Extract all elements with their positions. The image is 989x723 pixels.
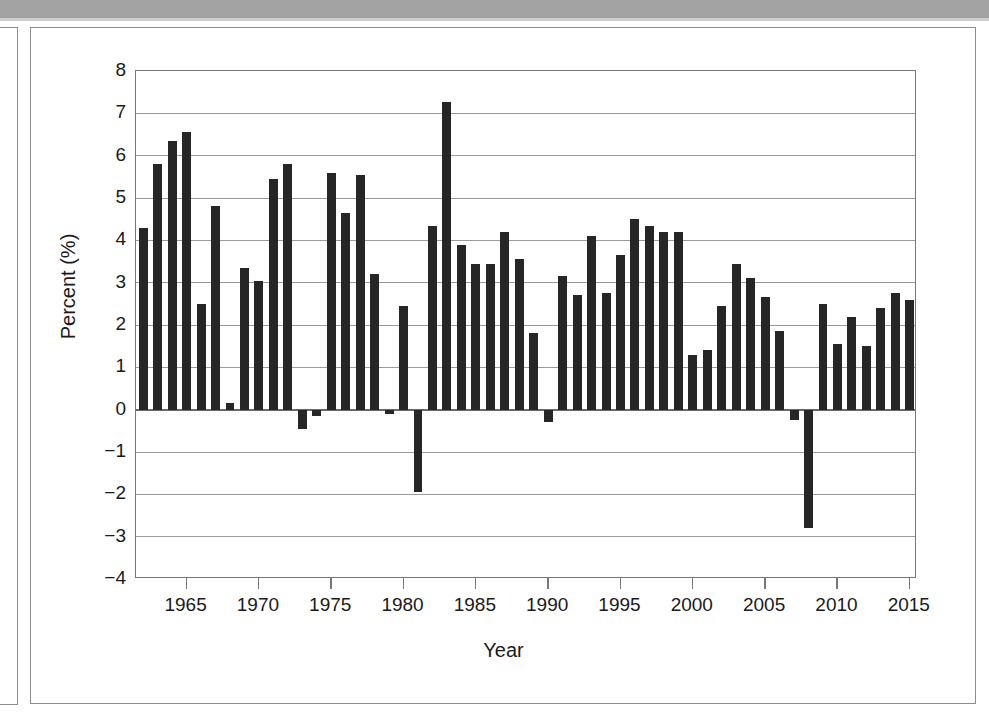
x-tick-mark — [403, 578, 404, 589]
y-tick-label: 8 — [115, 60, 126, 79]
bar — [471, 264, 480, 410]
bar — [269, 179, 278, 410]
x-tick-label: 2015 — [888, 594, 930, 616]
bar — [746, 278, 755, 409]
bar — [500, 232, 509, 410]
gridline — [136, 198, 915, 199]
gridline — [136, 155, 915, 156]
bar — [819, 304, 828, 410]
bar — [254, 281, 263, 410]
y-tick-label: −3 — [104, 526, 126, 545]
y-tick-label: −4 — [104, 568, 126, 587]
bar — [558, 276, 567, 409]
figure-container: Percent (%) 876543210−1−2−3−4 1965197019… — [30, 27, 977, 703]
bar — [674, 232, 683, 410]
x-tick-label: 2005 — [743, 594, 785, 616]
bar — [804, 410, 813, 529]
y-axis-tick-labels: 876543210−1−2−3−4 — [74, 70, 126, 578]
gridline — [136, 325, 915, 326]
bar — [442, 102, 451, 410]
bar — [414, 410, 423, 493]
gridline — [136, 536, 915, 537]
x-tick-mark — [692, 578, 693, 589]
bar — [616, 255, 625, 410]
x-tick-mark — [620, 578, 621, 589]
gridline — [136, 282, 915, 283]
bar — [891, 293, 900, 409]
x-tick-mark — [547, 578, 548, 589]
bar — [457, 245, 466, 410]
bar — [529, 333, 538, 409]
x-tick-label: 1985 — [454, 594, 496, 616]
bar — [587, 236, 596, 410]
plot-area — [135, 70, 916, 578]
bar — [283, 164, 292, 410]
y-tick-label: 6 — [115, 145, 126, 164]
y-tick-label: −2 — [104, 483, 126, 502]
x-tick-label: 1970 — [237, 594, 279, 616]
bar — [182, 132, 191, 409]
y-tick-label: −1 — [104, 441, 126, 460]
bar — [761, 297, 770, 409]
scan-band — [0, 0, 989, 18]
y-tick-label: 4 — [115, 229, 126, 248]
page-root: Percent (%) 876543210−1−2−3−4 1965197019… — [0, 0, 989, 723]
bar — [197, 304, 206, 410]
gridline — [136, 113, 915, 114]
bar — [428, 226, 437, 410]
bar — [399, 306, 408, 410]
bar — [602, 293, 611, 409]
x-tick-mark — [186, 578, 187, 589]
y-tick-label: 0 — [115, 399, 126, 418]
bar — [847, 317, 856, 410]
x-tick-mark — [764, 578, 765, 589]
outer-page-frame — [0, 27, 18, 705]
gridline — [136, 452, 915, 453]
x-tick-label: 1990 — [526, 594, 568, 616]
bar — [298, 410, 307, 429]
x-tick-mark — [330, 578, 331, 589]
x-tick-label: 1995 — [598, 594, 640, 616]
x-tick-label: 1975 — [309, 594, 351, 616]
x-tick-label: 1965 — [164, 594, 206, 616]
bar — [833, 344, 842, 410]
bar — [544, 410, 553, 423]
y-tick-label: 2 — [115, 314, 126, 333]
scan-band-edge — [0, 18, 989, 21]
bar — [876, 308, 885, 410]
bar — [905, 300, 914, 410]
gridline — [136, 494, 915, 495]
x-axis-title: Year — [30, 639, 977, 662]
bar — [356, 175, 365, 410]
x-tick-label: 2000 — [671, 594, 713, 616]
bar — [862, 346, 871, 410]
x-tick-mark — [475, 578, 476, 589]
x-tick-label: 2010 — [815, 594, 857, 616]
bar — [630, 219, 639, 410]
gridline — [136, 240, 915, 241]
bar — [688, 355, 697, 410]
y-tick-label: 1 — [115, 356, 126, 375]
x-tick-label: 1980 — [381, 594, 423, 616]
bar — [573, 295, 582, 409]
y-tick-label: 5 — [115, 187, 126, 206]
bar — [717, 306, 726, 410]
bar — [790, 410, 799, 421]
bar — [703, 350, 712, 409]
bar — [211, 206, 220, 409]
x-tick-mark — [909, 578, 910, 589]
y-tick-label: 7 — [115, 102, 126, 121]
bar — [370, 274, 379, 409]
bar — [327, 173, 336, 410]
bar — [153, 164, 162, 410]
bar — [645, 226, 654, 410]
bar — [341, 213, 350, 410]
y-tick-label: 3 — [115, 272, 126, 291]
bar — [775, 331, 784, 409]
x-tick-mark — [258, 578, 259, 589]
bar — [732, 264, 741, 410]
bar — [486, 264, 495, 410]
bar — [240, 268, 249, 410]
gridline — [136, 367, 915, 368]
bar — [385, 410, 394, 414]
